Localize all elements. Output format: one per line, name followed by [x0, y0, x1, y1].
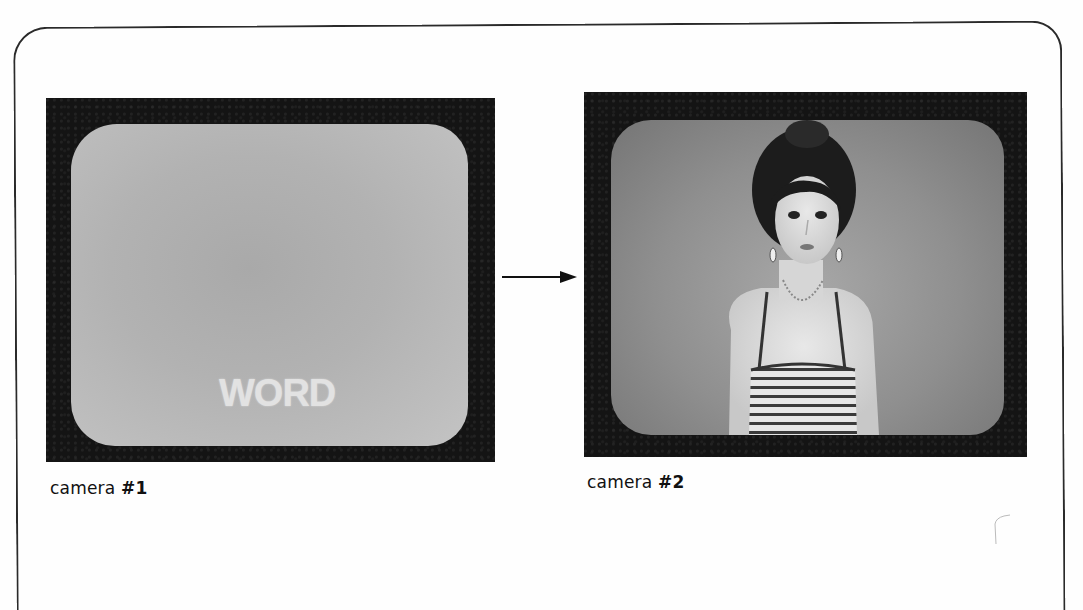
- figure-page: WORD: [0, 0, 1083, 610]
- pencil-mark-icon: [990, 510, 1020, 550]
- camera-1-label-text: camera: [50, 478, 121, 498]
- camera-1-label-number: #1: [121, 478, 147, 498]
- right-arrow-icon: [502, 270, 577, 284]
- screen-camera-1: WORD: [71, 124, 468, 446]
- monitor-camera-2: [584, 92, 1027, 457]
- monitor-camera-1: WORD: [46, 98, 495, 462]
- screen-word-caption: WORD: [219, 372, 335, 415]
- woman-portrait-image: [611, 120, 1004, 435]
- camera-2-label: camera #2: [587, 472, 684, 492]
- camera-1-label: camera #1: [50, 478, 147, 498]
- screen-camera-2: [611, 120, 1004, 435]
- camera-2-label-text: camera: [587, 472, 658, 492]
- camera-2-label-number: #2: [658, 472, 684, 492]
